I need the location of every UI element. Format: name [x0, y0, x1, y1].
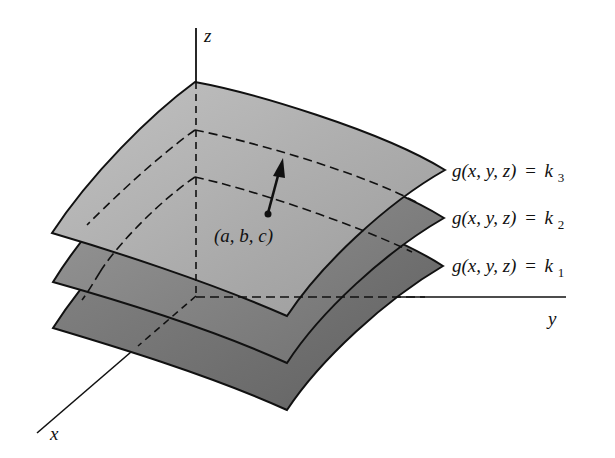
- svg-text:g(x, y, z) = k: g(x, y, z) = k 2: [452, 207, 564, 232]
- svg-text:g(x, y, z) = k: g(x, y, z) = k 1: [452, 255, 564, 280]
- svg-text:g(x, y, z) = k: g(x, y, z) = k 3: [452, 160, 564, 185]
- eq-k3-sub: 3: [558, 170, 565, 185]
- eq-k3-k: k: [545, 160, 554, 181]
- eq-k2-k: k: [545, 207, 554, 228]
- eq-k1-func: g(x, y, z): [452, 255, 516, 277]
- level-surfaces-diagram: z y x (a, b, c) g(x, y, z) = k 3 g(x, y,…: [0, 0, 615, 458]
- eq-k3-equals: =: [525, 160, 536, 181]
- eq-k1-sub: 1: [558, 265, 565, 280]
- x-axis-label: x: [49, 423, 59, 444]
- eq-k1-equals: =: [525, 255, 536, 276]
- eq-k1-k: k: [545, 255, 554, 276]
- eq-k2-func: g(x, y, z): [452, 207, 516, 229]
- eq-k3-func: g(x, y, z): [452, 160, 516, 182]
- z-axis-label: z: [203, 25, 212, 46]
- eq-k2-sub: 2: [558, 217, 565, 232]
- equation-label-k2: g(x, y, z) = k 2: [452, 207, 564, 232]
- eq-k2-equals: =: [525, 207, 536, 228]
- y-axis-label: y: [546, 308, 557, 329]
- equation-label-k1: g(x, y, z) = k 1: [452, 255, 564, 280]
- point-label: (a, b, c): [214, 225, 273, 247]
- point-dot: [265, 211, 272, 218]
- equation-label-k3: g(x, y, z) = k 3: [452, 160, 564, 185]
